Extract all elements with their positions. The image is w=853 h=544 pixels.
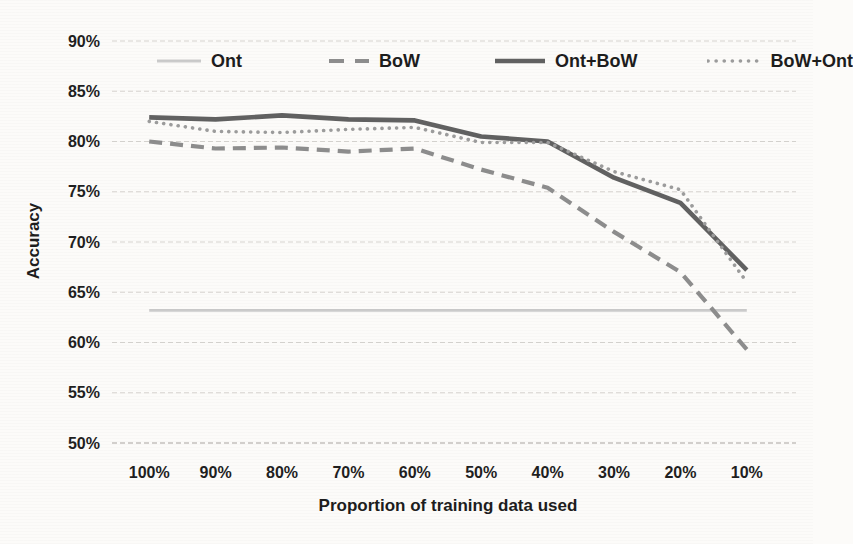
legend-label-bow: BoW — [379, 48, 420, 74]
x-tick-label-50: 50% — [465, 464, 497, 481]
x-tick-label-10: 10% — [731, 464, 763, 481]
series-line-ont-bow — [149, 115, 747, 270]
x-tick-label-70: 70% — [332, 464, 364, 481]
x-tick-label-20: 20% — [664, 464, 696, 481]
y-tick-label-80: 80% — [68, 133, 100, 150]
y-tick-label-75: 75% — [68, 183, 100, 200]
x-tick-label-100: 100% — [129, 464, 170, 481]
y-tick-label-60: 60% — [68, 334, 100, 351]
x-axis-title: Proportion of training data used — [116, 496, 780, 516]
ont-line-swatch — [156, 56, 202, 66]
legend-label-bow-ont: BoW+Ont — [770, 48, 853, 74]
y-tick-label-65: 65% — [68, 284, 100, 301]
y-axis-title: Accuracy — [24, 203, 44, 280]
x-tick-label-30: 30% — [598, 464, 630, 481]
x-tick-label-80: 80% — [266, 464, 298, 481]
y-tick-label-85: 85% — [68, 83, 100, 100]
x-tick-label-60: 60% — [399, 464, 431, 481]
ont-bow-line-swatch — [494, 56, 546, 66]
series-line-bow — [149, 142, 747, 350]
bow-dashed-line-swatch — [328, 56, 370, 66]
y-tick-label-70: 70% — [68, 234, 100, 251]
legend-label-ont-bow: Ont+BoW — [555, 48, 638, 74]
legend-item-bow: BoW — [328, 48, 420, 74]
y-tick-label-50: 50% — [68, 435, 100, 452]
y-tick-label-90: 90% — [68, 33, 100, 50]
legend-item-bow-ont: BoW+Ont — [707, 48, 853, 74]
x-tick-label-90: 90% — [200, 464, 232, 481]
x-tick-label-40: 40% — [532, 464, 564, 481]
legend-item-ont: Ont — [156, 48, 242, 74]
legend-item-ont-bow: Ont+BoW — [494, 48, 638, 74]
chart-legend: Ont BoW Ont+BoW BoW+Ont — [148, 48, 760, 74]
bow-ont-dotted-line-swatch — [707, 56, 761, 66]
y-tick-label-55: 55% — [68, 384, 100, 401]
legend-label-ont: Ont — [211, 48, 242, 74]
